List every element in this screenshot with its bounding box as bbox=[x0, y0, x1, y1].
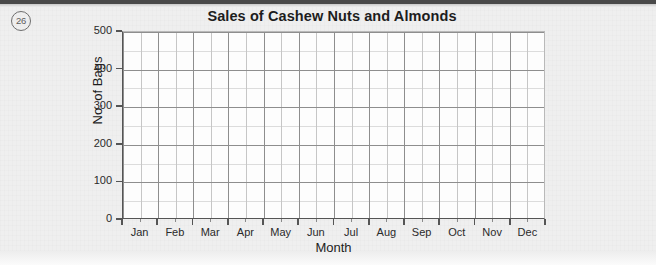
y-axis-tick-label: 100 bbox=[78, 174, 112, 186]
x-axis-tick bbox=[509, 219, 511, 225]
y-axis-tick-label: 300 bbox=[78, 99, 112, 111]
x-axis-tick bbox=[438, 219, 440, 225]
chart-title: Sales of Cashew Nuts and Almonds bbox=[119, 8, 545, 24]
chart-plot-area bbox=[122, 31, 545, 219]
x-axis-tick-label: Jan bbox=[120, 226, 160, 238]
x-axis-minor-tick bbox=[457, 219, 458, 222]
x-axis-minor-tick bbox=[245, 219, 246, 222]
x-axis-tick-label: Sep bbox=[402, 226, 442, 238]
x-axis-minor-tick bbox=[492, 219, 493, 222]
x-axis-tick bbox=[192, 219, 194, 225]
x-axis-tick bbox=[297, 219, 299, 225]
x-axis-minor-tick bbox=[210, 219, 211, 222]
x-axis-minor-tick bbox=[140, 219, 141, 222]
grid-major-lines bbox=[123, 32, 544, 218]
x-axis-minor-tick bbox=[351, 219, 352, 222]
x-axis-title: Month bbox=[122, 240, 545, 255]
y-axis-tick bbox=[116, 30, 122, 32]
x-axis-tick bbox=[333, 219, 335, 225]
exercise-number-badge: 26 bbox=[11, 11, 31, 31]
y-axis-tick bbox=[116, 105, 122, 107]
x-axis-tick bbox=[368, 219, 370, 225]
x-axis-minor-tick bbox=[527, 219, 528, 222]
x-axis-tick-label: Aug bbox=[366, 226, 406, 238]
x-axis-tick bbox=[474, 219, 476, 225]
y-axis-tick-label: 200 bbox=[78, 137, 112, 149]
x-axis-tick-label: Dec bbox=[507, 226, 547, 238]
x-axis-tick-label: Jun bbox=[296, 226, 336, 238]
grid-minor-lines bbox=[123, 32, 544, 218]
x-axis-tick bbox=[121, 219, 123, 225]
x-axis-tick bbox=[227, 219, 229, 225]
x-axis-tick-label: Oct bbox=[437, 226, 477, 238]
x-axis-tick bbox=[156, 219, 158, 225]
x-axis-minor-tick bbox=[386, 219, 387, 222]
x-axis-minor-tick bbox=[316, 219, 317, 222]
x-axis-tick-label: May bbox=[261, 226, 301, 238]
y-axis-tick bbox=[116, 143, 122, 145]
x-axis-minor-tick bbox=[175, 219, 176, 222]
x-axis-tick bbox=[544, 219, 546, 225]
y-axis-tick bbox=[116, 68, 122, 70]
x-axis-tick-label: Apr bbox=[225, 226, 265, 238]
x-axis-minor-tick bbox=[422, 219, 423, 222]
x-axis-tick-label: Feb bbox=[155, 226, 195, 238]
x-axis-tick-label: Nov bbox=[472, 226, 512, 238]
y-axis-tick bbox=[116, 181, 122, 183]
y-axis-tick-label: 0 bbox=[78, 212, 112, 224]
x-axis-tick bbox=[403, 219, 405, 225]
x-axis-minor-tick bbox=[281, 219, 282, 222]
x-axis-tick bbox=[262, 219, 264, 225]
worksheet-page: 26 Sales of Cashew Nuts and Almonds No. … bbox=[0, 0, 656, 265]
y-axis-title: No. of Bags bbox=[90, 46, 105, 136]
y-axis-tick-label: 500 bbox=[78, 24, 112, 36]
x-axis-tick-label: Mar bbox=[190, 226, 230, 238]
y-axis-tick-label: 400 bbox=[78, 62, 112, 74]
x-axis-tick-label: Jul bbox=[331, 226, 371, 238]
